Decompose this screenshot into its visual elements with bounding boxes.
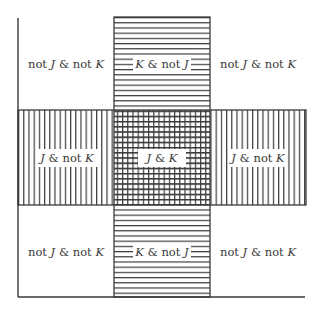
- region-label-top-center: K & not J: [134, 57, 190, 71]
- region-label-bottom-left: not J & not K: [28, 245, 105, 259]
- region-label-middle-center: J & K: [145, 151, 179, 165]
- region-label-bottom-right: not J & not K: [220, 245, 297, 259]
- region-label-bottom-center: K & not J: [134, 245, 190, 259]
- region-label-middle-left: J & not K: [38, 151, 95, 165]
- region-label-top-right: not J & not K: [220, 57, 297, 71]
- region-label-top-left: not J & not K: [28, 57, 105, 71]
- region-label-middle-right: J & not K: [229, 151, 286, 165]
- jk-venn-grid-diagram: not J & not K K & not J not J & not K J …: [0, 0, 323, 315]
